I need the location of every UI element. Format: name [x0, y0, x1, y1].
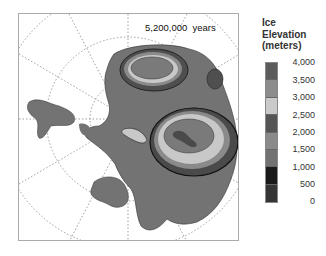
- legend-title-line: Ice: [262, 17, 306, 29]
- ice-dome-north: [120, 49, 188, 91]
- legend-colorbar: [265, 62, 278, 203]
- legend-swatch: [266, 115, 277, 132]
- legend-swatch: [266, 80, 277, 97]
- time-label: 5,200,000 years: [145, 22, 216, 33]
- legend-tick: 4,000: [280, 57, 315, 67]
- legend-swatch: [266, 150, 277, 167]
- legend-tick: 1,000: [280, 162, 315, 172]
- legend-swatch: [266, 185, 277, 202]
- legend-tick: 3,500: [280, 75, 315, 85]
- ice-dome-east: [150, 108, 238, 176]
- legend-tick: 3,000: [280, 92, 315, 102]
- legend-title: Ice Elevation (meters): [262, 17, 306, 52]
- legend-title-line: Elevation: [262, 29, 306, 41]
- legend-tick: 500: [280, 179, 315, 189]
- ice-elevation-map: [18, 13, 239, 241]
- legend-tick: 2,000: [280, 127, 315, 137]
- legend-swatch: [266, 133, 277, 150]
- legend-tick: 2,500: [280, 110, 315, 120]
- legend-tick: 1,500: [280, 144, 315, 154]
- legend-swatch: [266, 63, 277, 80]
- ice-dome-small: [207, 69, 223, 89]
- legend-title-line: (meters): [262, 40, 306, 52]
- legend-tick: 0: [280, 196, 315, 206]
- antarctica-map-svg: [19, 14, 239, 241]
- legend-swatch: [266, 98, 277, 115]
- legend-swatch: [266, 167, 277, 184]
